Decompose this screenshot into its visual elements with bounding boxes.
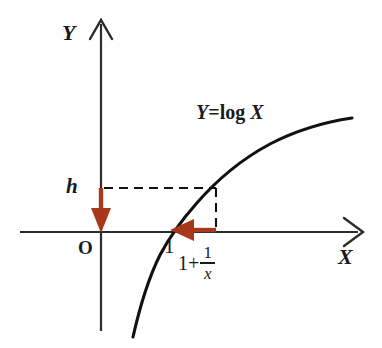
x-axis-label: X xyxy=(338,246,353,268)
curve-equation-function: log xyxy=(220,101,246,123)
x-tick-label-one: 1 xyxy=(164,236,175,257)
log-curve xyxy=(133,118,352,337)
h-label: h xyxy=(66,176,78,197)
diagram-canvas xyxy=(0,0,382,348)
fraction-denominator: x xyxy=(202,264,214,282)
log-curve-diagram: Y X O h 1 1+ 1 x Y=log X xyxy=(0,0,382,348)
curve-equation-argument: X xyxy=(250,101,263,123)
curve-equation-equals: = xyxy=(208,101,219,123)
x-tick-label-one-plus-one-over-x: 1+ 1 x xyxy=(178,244,215,282)
fraction-numerator: 1 xyxy=(202,244,215,262)
fraction-one-over-x: 1 x xyxy=(200,244,215,282)
curve-equation-label: Y=log X xyxy=(196,102,264,122)
origin-label: O xyxy=(78,238,93,257)
h-arrow-head-icon xyxy=(91,208,111,233)
y-axis-label: Y xyxy=(62,22,75,44)
curve-equation-lhs: Y xyxy=(196,101,208,123)
one-plus-prefix: 1+ xyxy=(178,253,199,273)
